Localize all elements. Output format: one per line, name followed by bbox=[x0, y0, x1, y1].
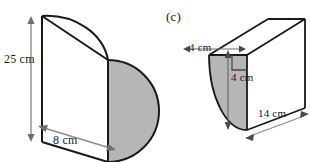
left-figure-group bbox=[27, 14, 159, 162]
figure-tag-c: (c) bbox=[166, 9, 181, 25]
label-radius-vertical-4cm: 4 cm bbox=[231, 71, 254, 83]
left-semicircle-face bbox=[108, 60, 159, 162]
label-length-14cm: 14 cm bbox=[258, 107, 286, 119]
figures-svg bbox=[0, 0, 310, 162]
label-depth-8cm: 8 cm bbox=[53, 133, 77, 148]
geometry-figure-canvas: 25 cm 8 cm (c) 4 cm 4 cm 14 cm bbox=[0, 0, 310, 162]
dimension-height-25 bbox=[27, 16, 34, 142]
label-height-25cm: 25 cm bbox=[4, 52, 35, 67]
label-radius-horizontal-4cm: 4 cm bbox=[189, 41, 212, 53]
